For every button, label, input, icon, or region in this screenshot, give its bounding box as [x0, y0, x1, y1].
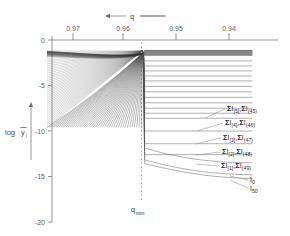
label-4-sub2: (46): [246, 122, 255, 128]
label-i0-sub: 0: [252, 179, 255, 185]
svg-text:ΣI[3],ΣI(47): ΣI[3],ΣI(47): [223, 133, 253, 143]
svg-text:I50: I50: [250, 185, 258, 194]
y-axis-title-subscript: i: [26, 133, 27, 139]
plateau-curve: [143, 52, 252, 92]
plateau-curve-group: [143, 50, 252, 178]
y-tick-label-minus15: -15: [35, 173, 45, 180]
x-axis: [52, 33, 278, 40]
svg-text:ΣI[2],ΣI(48): ΣI[2],ΣI(48): [222, 147, 252, 157]
plateau-curve: [143, 52, 252, 76]
chart-canvas: q 0.97 0.96 0.95 0.94 0 -5 -10 -15 -20: [0, 0, 290, 236]
x-tick-label-096: 0.96: [116, 25, 130, 32]
label-3-sub2: (47): [244, 137, 253, 143]
annotation-label-3: ΣI[3],ΣI(47): [223, 133, 253, 143]
x-tick-label-094: 0.94: [222, 25, 236, 32]
y-axis-title-var: y: [21, 128, 25, 137]
annotation-label-i0: I0: [250, 176, 255, 185]
plateau-curve: [143, 52, 252, 97]
label-1-sub2: (49): [242, 165, 251, 171]
label-i50-sub: 50: [252, 188, 258, 194]
svg-text:ΣI[5],ΣI(45): ΣI[5],ΣI(45): [227, 104, 257, 114]
fan-curve-group: [47, 51, 143, 127]
x-tick-label-097: 0.97: [66, 25, 80, 32]
y-tick-label-0: 0: [41, 37, 45, 44]
y-axis-title: log y i: [5, 128, 27, 139]
label-2-sub2: (48): [243, 151, 252, 157]
plateau-curve: [143, 52, 252, 113]
plateau-curve: [143, 52, 252, 108]
y-tick-label-minus20: -20: [35, 219, 45, 226]
y-axis-title-log: log: [5, 128, 15, 137]
plateau-curve: [143, 52, 252, 103]
annotation-label-i50: I50: [250, 185, 258, 194]
y-tick-label-minus5: -5: [39, 82, 45, 89]
svg-text:ΣI[1],ΣI(49): ΣI[1],ΣI(49): [221, 161, 251, 171]
q-axis-arrow-label: q: [130, 12, 134, 21]
annotation-label-4: ΣI[4],ΣI(46): [225, 118, 255, 128]
qmin-label-main: q: [131, 206, 135, 214]
qmin-label: q min: [131, 206, 144, 216]
annotation-label-2: ΣI[2],ΣI(48): [222, 147, 252, 157]
chart-figure: q 0.97 0.96 0.95 0.94 0 -5 -10 -15 -20: [0, 0, 290, 236]
plateau-curve: [143, 52, 252, 131]
svg-text:I0: I0: [250, 176, 255, 185]
y-axis-title-arrow: [29, 102, 33, 160]
qmin-label-sub: min: [136, 210, 144, 216]
y-tick-label-minus10: -10: [35, 128, 45, 135]
x-tick-label-095: 0.95: [169, 25, 183, 32]
annotation-label-1: ΣI[1],ΣI(49): [221, 161, 251, 171]
plateau-curve: [143, 52, 252, 81]
annotation-label-5: ΣI[5],ΣI(45): [227, 104, 257, 114]
label-5-sub2: (45): [248, 108, 257, 114]
q-direction-arrow: [105, 14, 166, 18]
plateau-curve: [143, 52, 252, 86]
svg-text:ΣI[4],ΣI(46): ΣI[4],ΣI(46): [225, 118, 255, 128]
